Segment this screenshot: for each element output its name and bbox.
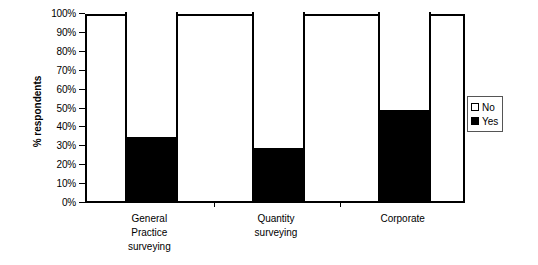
y-tick-label: 80%	[57, 46, 76, 57]
y-tick-label: 60%	[57, 84, 76, 95]
y-tick-label: 70%	[57, 65, 76, 76]
legend-item-no: No	[471, 100, 498, 114]
x-axis-label-line: surveying	[89, 240, 209, 254]
y-tick-label: 100%	[51, 8, 76, 19]
legend-label-yes: Yes	[482, 116, 498, 127]
x-axis-label-line: General	[89, 212, 209, 226]
x-axis-label-line: Corporate	[343, 212, 463, 226]
x-axis-label-line: Practice	[89, 226, 209, 240]
plot-area	[85, 14, 465, 203]
y-tick-label: 90%	[57, 27, 76, 38]
x-tick-mark	[214, 201, 215, 207]
legend-label-no: No	[482, 102, 495, 113]
y-tick-label: 50%	[57, 103, 76, 114]
bar-1	[125, 12, 178, 201]
x-axis-label-line: Quantity	[216, 212, 336, 226]
legend-swatch-yes-icon	[471, 117, 479, 125]
y-tick-label: 30%	[57, 140, 76, 151]
chart-figure: % respondents 0%10%20%30%40%50%60%70%80%…	[0, 0, 538, 265]
y-tick-label: 20%	[57, 159, 76, 170]
bar-segment-yes	[125, 137, 178, 201]
y-tick-label: 0%	[62, 197, 76, 208]
bar-segment-yes	[252, 148, 305, 201]
x-axis-label-1: GeneralPracticesurveying	[89, 212, 209, 254]
y-tick-label: 40%	[57, 121, 76, 132]
x-tick-mark	[340, 201, 341, 207]
x-axis-label-2: Quantitysurveying	[216, 212, 336, 240]
bar-3	[378, 12, 431, 201]
legend-swatch-no-icon	[471, 103, 479, 111]
legend-item-yes: Yes	[471, 114, 498, 128]
y-tick-label: 10%	[57, 178, 76, 189]
chart-legend: No Yes	[467, 96, 503, 132]
bar-2	[252, 12, 305, 201]
x-axis-label-3: Corporate	[343, 212, 463, 226]
bar-segment-yes	[378, 110, 431, 201]
x-axis-label-line: surveying	[216, 226, 336, 240]
y-axis-title: % respondents	[32, 42, 43, 182]
